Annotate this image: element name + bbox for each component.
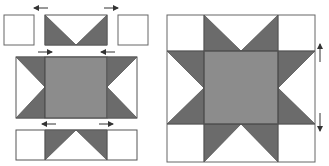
top-row: [4, 8, 148, 45]
left-panel: [4, 8, 148, 160]
center-square: [204, 51, 278, 124]
flying-geese-unit: [45, 15, 107, 45]
right-panel-completed-block: [167, 15, 320, 162]
corner-square: [118, 15, 148, 45]
center-square: [45, 57, 107, 118]
middle-row: [16, 52, 137, 118]
quilt-diagram: [0, 0, 329, 166]
bottom-row: [16, 124, 137, 160]
corner-square: [4, 15, 34, 45]
